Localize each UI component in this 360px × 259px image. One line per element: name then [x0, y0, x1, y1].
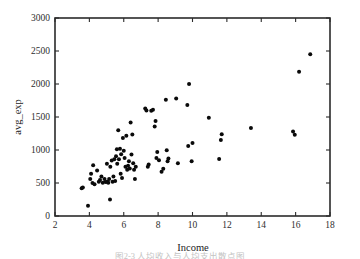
- data-point: [186, 144, 190, 148]
- data-point: [165, 148, 169, 152]
- data-point: [86, 204, 90, 208]
- data-point: [157, 158, 161, 162]
- data-point: [123, 156, 127, 160]
- data-point: [154, 119, 158, 123]
- data-point: [185, 103, 189, 107]
- y-tick-label: 3000: [31, 13, 50, 23]
- data-point: [293, 133, 297, 137]
- x-tick-label: 6: [121, 220, 126, 230]
- data-point: [207, 116, 211, 120]
- data-point: [297, 70, 301, 74]
- x-tick-label: 4: [87, 220, 92, 230]
- y-tick-label: 0: [45, 211, 50, 221]
- data-point: [118, 147, 122, 151]
- y-tick-label: 2500: [31, 46, 50, 56]
- data-point: [129, 153, 133, 157]
- data-point: [111, 174, 115, 178]
- data-point: [81, 186, 85, 190]
- data-point: [127, 159, 131, 163]
- data-point: [121, 136, 125, 140]
- data-point: [116, 128, 120, 132]
- data-point: [91, 163, 95, 167]
- data-point: [153, 125, 157, 129]
- data-point: [106, 181, 110, 185]
- x-tick-label: 16: [291, 220, 301, 230]
- x-tick-label: 18: [325, 220, 335, 230]
- x-tick-label: 10: [188, 220, 198, 230]
- data-point: [119, 172, 123, 176]
- y-tick-label: 1500: [31, 112, 50, 122]
- data-point: [220, 132, 224, 136]
- x-axis-ticks: 24681012141618: [53, 18, 335, 230]
- scatter-plot: 24681012141618 050010001500200025003000 …: [0, 0, 360, 259]
- x-tick-label: 2: [53, 220, 58, 230]
- data-point: [147, 163, 151, 167]
- y-tick-label: 2000: [31, 79, 50, 89]
- data-point: [108, 198, 112, 202]
- data-point: [129, 121, 133, 125]
- data-point: [249, 126, 253, 130]
- data-point: [113, 179, 117, 183]
- plot-frame: [55, 18, 330, 216]
- data-point: [191, 141, 195, 145]
- data-point: [155, 150, 159, 154]
- y-axis-title: avg_exp: [12, 99, 23, 135]
- data-point: [120, 176, 124, 180]
- data-point: [219, 138, 223, 142]
- data-point: [128, 166, 132, 170]
- data-point: [187, 82, 191, 86]
- data-point: [119, 152, 123, 156]
- x-tick-label: 12: [222, 220, 232, 230]
- data-point: [217, 157, 221, 161]
- y-axis-ticks: 050010001500200025003000: [31, 13, 330, 221]
- y-tick-label: 500: [36, 178, 51, 188]
- data-points: [80, 52, 313, 207]
- x-tick-label: 8: [156, 220, 161, 230]
- data-point: [131, 161, 135, 165]
- data-point: [164, 98, 168, 102]
- data-point: [108, 165, 112, 169]
- data-point: [88, 177, 92, 181]
- data-point: [166, 157, 170, 161]
- data-point: [93, 182, 97, 186]
- data-point: [89, 172, 93, 176]
- data-point: [174, 97, 178, 101]
- data-point: [151, 108, 155, 112]
- data-point: [308, 52, 312, 56]
- data-point: [134, 165, 138, 169]
- data-point: [107, 177, 111, 181]
- data-point: [114, 154, 118, 158]
- data-point: [105, 162, 109, 166]
- data-point: [133, 177, 137, 181]
- x-tick-label: 14: [257, 220, 267, 230]
- data-point: [144, 108, 148, 112]
- data-point: [95, 168, 99, 172]
- data-point: [122, 149, 126, 153]
- figure-caption: 图2-3 人均收入与人均支出散点图: [0, 250, 360, 259]
- data-point: [130, 132, 134, 136]
- data-point: [161, 167, 165, 171]
- scatter-figure: 24681012141618 050010001500200025003000 …: [0, 0, 360, 259]
- y-tick-label: 1000: [31, 145, 50, 155]
- data-point: [190, 159, 194, 163]
- data-point: [124, 134, 128, 138]
- data-point: [115, 162, 119, 166]
- data-point: [99, 174, 103, 178]
- data-point: [117, 157, 121, 161]
- data-point: [176, 161, 180, 165]
